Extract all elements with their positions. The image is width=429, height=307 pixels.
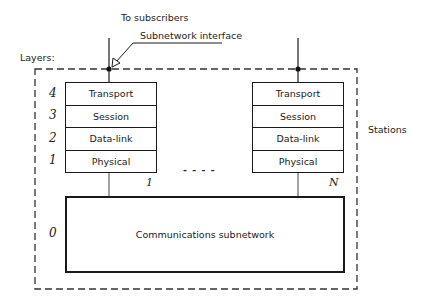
station-1-layer-session: Session <box>66 106 156 129</box>
station-1-index: 1 <box>146 176 153 189</box>
station-1-stack: Transport Session Data-link Physical <box>65 82 157 173</box>
station-n-layer-session: Session <box>253 106 343 129</box>
station-n-layer-physical: Physical <box>253 151 343 174</box>
station-1-layer-transport: Transport <box>66 83 156 106</box>
interface-dot-n <box>295 66 300 71</box>
to-subscribers-label: To subscribers <box>121 12 188 23</box>
station-1-layer-physical: Physical <box>66 151 156 174</box>
layers-label: Layers: <box>20 52 55 63</box>
layer-number-3: 3 <box>49 108 57 122</box>
layer-number-0: 0 <box>49 226 57 240</box>
subnetwork-interface-label: Subnetwork interface <box>140 30 242 41</box>
interface-leader-line <box>116 43 222 62</box>
communications-subnetwork-box: Communications subnetwork <box>65 196 345 273</box>
station-n-layer-transport: Transport <box>253 83 343 106</box>
layer-number-1: 1 <box>49 153 57 167</box>
station-n-layer-data-link: Data-link <box>253 128 343 151</box>
communications-subnetwork-label: Communications subnetwork <box>136 229 274 240</box>
layer-number-2: 2 <box>49 131 57 145</box>
station-n-index: N <box>329 176 339 189</box>
stations-label: Stations <box>368 124 407 135</box>
layer-number-4: 4 <box>49 86 57 100</box>
interface-dot-1 <box>106 66 111 71</box>
ellipsis: - - - - <box>183 164 216 175</box>
station-n-stack: Transport Session Data-link Physical <box>252 82 344 173</box>
station-1-layer-data-link: Data-link <box>66 128 156 151</box>
